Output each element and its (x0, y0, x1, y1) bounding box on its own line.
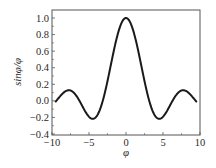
y-tick-label: 0.2 (36, 79, 49, 90)
y-tick-label: 0.8 (36, 29, 49, 40)
plot-frame (52, 10, 200, 135)
y-tick-label: 0.0 (36, 95, 49, 106)
y-axis-label: sinφ/φ (11, 58, 23, 86)
x-axis-label: φ (123, 146, 129, 158)
y-tick-label: 1.0 (36, 13, 49, 24)
sinc-chart: −0.4−0.20.00.20.40.60.81.0 −10−50510 φ s… (0, 0, 216, 168)
y-tick-label: 0.4 (36, 62, 50, 73)
y-tick-label: −0.2 (30, 112, 49, 123)
x-tick-label: −5 (83, 137, 94, 148)
x-tick-label: 5 (160, 137, 165, 148)
sinc-curve (56, 18, 197, 119)
x-tick-label: −10 (44, 137, 60, 148)
y-tick-label: 0.6 (36, 46, 49, 57)
y-axis-ticks: −0.4−0.20.00.20.40.60.81.0 (30, 13, 55, 140)
chart-canvas: −0.4−0.20.00.20.40.60.81.0 −10−50510 φ s… (0, 0, 216, 168)
x-tick-label: 10 (195, 137, 206, 148)
